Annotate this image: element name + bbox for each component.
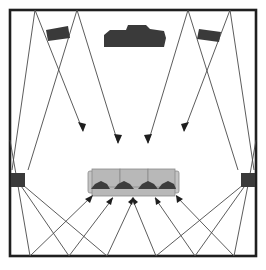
front-right-speaker [197, 29, 221, 42]
couch [88, 169, 179, 196]
arrow-icon [181, 122, 189, 132]
center-speaker [104, 25, 166, 47]
left-surround-speaker [11, 173, 25, 187]
arrow-icon [155, 197, 161, 205]
rear-arrowheads [85, 195, 183, 205]
arrow-icon [114, 134, 122, 144]
arrow-icon [144, 134, 152, 144]
front-left-speaker [46, 26, 70, 41]
speaker-layout-diagram [0, 0, 266, 270]
right-surround-speaker [241, 173, 255, 187]
arrow-icon [106, 197, 113, 205]
front-arrowheads [78, 122, 189, 144]
arrow-icon [78, 122, 86, 132]
